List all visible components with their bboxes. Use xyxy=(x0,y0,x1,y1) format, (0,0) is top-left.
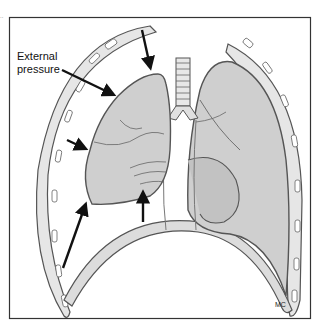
corner-mark: .. xyxy=(0,13,3,19)
external-pressure-label: External pressure xyxy=(17,50,60,76)
diagram-canvas: .. External pressure MC xyxy=(0,0,323,327)
label-line-1: External xyxy=(17,50,60,63)
label-line-2: pressure xyxy=(17,63,60,76)
illustrator-credit: MC xyxy=(275,301,286,308)
